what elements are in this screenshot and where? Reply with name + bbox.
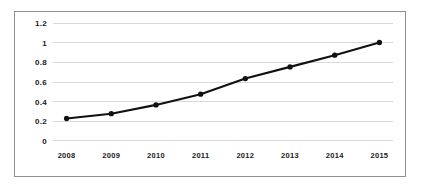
plot-area: 00.20.40.60.811.2 2008200920102011201220… <box>53 23 393 140</box>
y-axis-tick-label: 0.8 <box>35 58 47 67</box>
y-axis-tick-label: 0.4 <box>35 97 47 106</box>
x-axis-tick-label: 2012 <box>236 151 254 160</box>
data-series-line <box>53 23 393 140</box>
x-axis-tick-label: 2014 <box>326 151 344 160</box>
x-axis-tick-label: 2010 <box>147 151 165 160</box>
chart-plot-wrapper: 00.20.40.60.811.2 2008200920102011201220… <box>15 12 405 176</box>
x-axis-tick-label: 2013 <box>281 151 299 160</box>
data-point-marker <box>243 76 248 81</box>
x-axis-tick-label: 2009 <box>102 151 120 160</box>
y-axis-tick-label: 1.2 <box>35 19 47 28</box>
y-axis-tick-label: 0.6 <box>35 78 47 87</box>
y-axis-tick-label: 0.2 <box>35 117 47 126</box>
gridline: 0 <box>53 140 393 141</box>
series-markers-group <box>64 40 382 121</box>
data-point-marker <box>64 116 69 121</box>
chart-container: 00.20.40.60.811.2 2008200920102011201220… <box>14 11 406 177</box>
data-point-marker <box>377 40 382 45</box>
data-point-marker <box>198 91 203 96</box>
y-axis-tick-label: 0 <box>42 137 47 146</box>
x-axis-tick-label: 2011 <box>192 151 209 160</box>
data-point-marker <box>332 52 337 57</box>
data-point-marker <box>153 102 158 107</box>
x-axis-tick-label: 2015 <box>370 151 388 160</box>
y-axis-tick-label: 1 <box>42 38 47 47</box>
data-point-marker <box>109 111 114 116</box>
x-axis-tick-label: 2008 <box>58 151 76 160</box>
data-point-marker <box>287 64 292 69</box>
